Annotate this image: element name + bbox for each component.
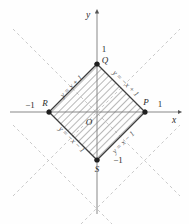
x-tick-label-1: 1 (158, 99, 163, 109)
rhombus-fill (49, 64, 145, 160)
shaded-region (49, 64, 145, 160)
vertex-label-R: R (41, 98, 48, 108)
point-S (94, 157, 99, 162)
diagram-canvas: y x O 1 −1 −1 1 Q P S R y = x + 1 y = −x… (0, 0, 189, 224)
point-P (142, 109, 147, 114)
x-axis-label: x (171, 115, 177, 125)
x-tick-label-neg-1: −1 (25, 100, 35, 110)
coordinate-plane-figure: y x O 1 −1 −1 1 Q P S R y = x + 1 y = −x… (0, 0, 189, 224)
vertex-label-Q: Q (102, 55, 109, 65)
y-tick-label-neg-1: −1 (113, 155, 123, 165)
point-R (46, 109, 51, 114)
y-tick-label-1: 1 (102, 44, 107, 54)
y-axis-label: y (85, 10, 91, 20)
point-Q (94, 61, 99, 66)
vertex-label-S: S (95, 164, 100, 174)
vertex-label-P: P (142, 97, 149, 107)
origin-label: O (86, 117, 93, 127)
